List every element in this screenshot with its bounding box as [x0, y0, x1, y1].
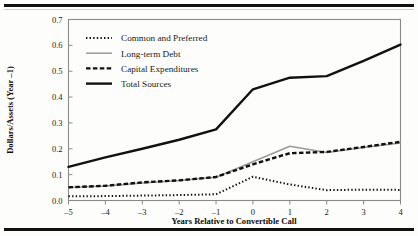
- chart-legend: Common and PreferredLong-term DebtCapita…: [86, 33, 208, 89]
- x-tick-label: –2: [174, 207, 184, 217]
- x-tick-label: –1: [211, 207, 221, 217]
- y-tick-label: 0.3: [52, 118, 63, 128]
- x-tick-label: 0: [251, 207, 255, 217]
- x-tick-label: 3: [361, 207, 365, 217]
- x-tick-label: 2: [325, 207, 329, 217]
- legend-label: Common and Preferred: [121, 33, 208, 43]
- x-tick-label: 1: [288, 207, 292, 217]
- data-series-group: [69, 45, 401, 197]
- x-axis-title: Years Relative to Convertible Call: [171, 216, 297, 226]
- x-tick-label: –5: [63, 207, 73, 217]
- y-tick-label: 0.1: [52, 170, 63, 180]
- figure-container: 0.00.10.20.30.40.50.60.7 –5–4–3–2–101234…: [0, 0, 418, 236]
- series-line: [69, 142, 401, 188]
- legend-label: Total Sources: [121, 79, 172, 89]
- x-axis-ticks: –5–4–3–2–101234: [63, 201, 403, 217]
- y-tick-label: 0.4: [52, 92, 63, 102]
- y-tick-label: 0.6: [52, 40, 63, 50]
- series-line: [69, 177, 401, 197]
- y-tick-label: 0.2: [52, 144, 63, 154]
- y-axis-title: Dollars/Assets (Year –1): [5, 66, 15, 154]
- x-tick-label: –4: [100, 207, 110, 217]
- y-tick-label: 0.0: [52, 196, 63, 206]
- x-tick-label: 4: [398, 207, 403, 217]
- legend-label: Long-term Debt: [121, 49, 181, 59]
- legend-label: Capital Expenditures: [121, 64, 199, 74]
- y-tick-label: 0.5: [52, 66, 63, 76]
- y-tick-label: 0.7: [52, 15, 63, 25]
- y-axis-ticks: 0.00.10.20.30.40.50.60.7: [52, 15, 73, 206]
- x-tick-label: –3: [137, 207, 147, 217]
- chart-svg: 0.00.10.20.30.40.50.60.7 –5–4–3–2–101234…: [0, 0, 418, 236]
